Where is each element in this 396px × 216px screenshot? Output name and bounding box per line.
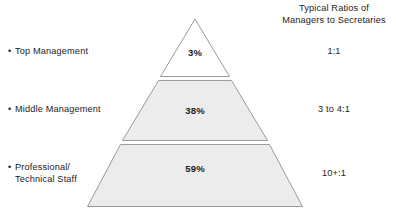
level-label-text: Top Management — [15, 46, 88, 58]
level-label-top-management: • Top Management — [8, 46, 88, 58]
bullet-icon: • — [8, 46, 15, 58]
bullet-icon: • — [8, 162, 15, 174]
percent-value-professional-technical-staff: 59% — [168, 163, 222, 174]
percent-value-top-management: 3% — [168, 47, 222, 58]
pyramid-segment-bottom — [88, 145, 303, 207]
ratio-value-top-management: 1:1 — [274, 46, 394, 58]
level-label-middle-management: • Middle Management — [8, 104, 101, 116]
ratio-value-middle-management: 3 to 4:1 — [274, 104, 394, 116]
level-label-professional-technical-staff: • Professional/ Technical Staff — [8, 162, 77, 185]
pyramid-diagram: • Top Management • Middle Management • P… — [0, 0, 396, 216]
ratio-column-header: Typical Ratios of Managers to Secretarie… — [274, 3, 394, 26]
ratio-value-professional-technical-staff: 10+:1 — [274, 168, 394, 180]
bullet-icon: • — [8, 104, 15, 116]
percent-value-middle-management: 38% — [168, 105, 222, 116]
level-label-text: Professional/ Technical Staff — [15, 162, 77, 185]
level-label-text: Middle Management — [15, 104, 101, 116]
